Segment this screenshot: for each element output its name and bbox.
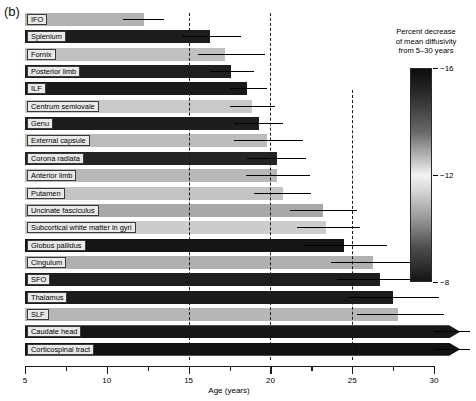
bar-row: Thalamus <box>25 291 434 304</box>
x-tick-label: 25 <box>348 376 357 385</box>
x-tick-label: 15 <box>184 376 193 385</box>
x-tick-major <box>270 366 271 374</box>
colorbar-tick-label: −8 <box>440 278 449 287</box>
bar-row: Corticospinal tract <box>25 343 434 356</box>
bar-label: Centrum semiovale <box>27 101 99 112</box>
bar-row: Corona radiata <box>25 152 434 165</box>
colorbar-gradient <box>410 68 432 282</box>
x-tick-minor <box>311 366 312 371</box>
colorbar-tick-label: −16 <box>440 64 454 73</box>
bar-label: SFO <box>27 274 50 285</box>
colorbar-title-line: Percent decrease <box>384 27 468 37</box>
bar-label: Thalamus <box>27 292 67 303</box>
bar-label: Fornix <box>27 49 56 60</box>
x-tick-label: 10 <box>102 376 111 385</box>
x-tick-major <box>107 366 108 374</box>
error-bar <box>331 262 421 263</box>
x-tick-major <box>189 366 190 374</box>
bar-row: Uncinate fasciculus <box>25 204 434 217</box>
bar-label: SLF <box>27 309 49 320</box>
x-tick-minor <box>393 366 394 371</box>
bar-row: Globus pallidus <box>25 239 434 252</box>
bar-label: Globus pallidus <box>27 240 86 251</box>
error-bar <box>349 297 439 298</box>
x-tick-minor <box>148 366 149 371</box>
colorbar-title-line: from 5–30 years <box>384 46 468 56</box>
error-bar <box>247 158 306 159</box>
bar-row: Centrum semiovale <box>25 100 434 113</box>
bar-label: Cingulum <box>27 257 66 268</box>
bar-row: Putamen <box>25 187 434 200</box>
bar <box>25 82 247 95</box>
bar-label: IFO <box>27 14 47 25</box>
bar-label: Putamen <box>27 188 65 199</box>
x-tick-minor <box>230 366 231 371</box>
reference-line <box>189 13 190 360</box>
bar-label: Posterior limb <box>27 66 80 77</box>
colorbar-tick <box>433 68 438 69</box>
error-bar <box>297 227 361 228</box>
bar-row: Splenium <box>25 30 434 43</box>
bar <box>25 256 373 269</box>
error-bar <box>290 210 357 211</box>
colorbar-title-line: of mean diffusivity <box>384 37 468 47</box>
error-bar <box>246 175 310 176</box>
bar <box>25 291 393 304</box>
figure-panel: (b) IFOSpleniumFornixPosterior limbILFCe… <box>0 0 476 401</box>
x-tick-label: 20 <box>266 376 275 385</box>
colorbar-tick <box>433 175 438 176</box>
error-bar <box>210 71 254 72</box>
bar-label: Genu <box>27 118 53 129</box>
bar-label: ILF <box>27 83 46 94</box>
reference-line <box>352 90 353 360</box>
plot-area: IFOSpleniumFornixPosterior limbILFCentru… <box>25 13 434 360</box>
error-bar <box>303 245 386 246</box>
bar-label: Corona radiata <box>27 153 84 164</box>
x-tick-minor <box>66 366 67 371</box>
bar-label: Subcortical white matter in gyri <box>27 222 136 233</box>
colorbar-legend: Percent decreaseof mean diffusivityfrom … <box>384 27 476 56</box>
colorbar-title: Percent decreaseof mean diffusivityfrom … <box>384 27 468 56</box>
bar-row: SFO <box>25 273 434 286</box>
bar-row: SLF <box>25 308 434 321</box>
error-bar <box>434 331 470 332</box>
bar <box>25 117 259 130</box>
error-bar <box>234 123 283 124</box>
bar-label: Corticospinal tract <box>27 344 94 355</box>
error-bar <box>254 193 311 194</box>
bar-row: Cingulum <box>25 256 434 269</box>
error-bar <box>234 140 303 141</box>
error-bar <box>357 314 444 315</box>
error-bar <box>434 349 470 350</box>
x-tick-major <box>434 366 435 374</box>
bar-row: Subcortical white matter in gyri <box>25 221 434 234</box>
bar-row: Anterior limb <box>25 169 434 182</box>
bar-row: Caudate head <box>25 325 434 338</box>
bar-row: Fornix <box>25 48 434 61</box>
bar <box>25 273 380 286</box>
bar-label: Caudate head <box>27 326 81 337</box>
bar-row: Genu <box>25 117 434 130</box>
bar-label: Splenium <box>27 31 66 42</box>
error-bar <box>198 54 265 55</box>
panel-letter: (b) <box>4 4 20 19</box>
reference-line <box>270 13 271 360</box>
bar-label: External capsule <box>27 135 90 146</box>
bar-row: IFO <box>25 13 434 26</box>
colorbar-tick-label: −12 <box>440 171 454 180</box>
x-tick-major <box>25 366 26 374</box>
bar <box>25 325 460 338</box>
error-bar <box>230 106 276 107</box>
bar-row: External capsule <box>25 134 434 147</box>
error-bar <box>182 36 241 37</box>
bar-row: Posterior limb <box>25 65 434 78</box>
x-tick-major <box>352 366 353 374</box>
bar-label: Uncinate fasciculus <box>27 205 99 216</box>
error-bar <box>123 19 164 20</box>
bar-label: Anterior limb <box>27 170 76 181</box>
error-bar <box>230 88 268 89</box>
colorbar-tick <box>433 282 438 283</box>
x-tick-label: 5 <box>23 376 27 385</box>
bar-row: ILF <box>25 82 434 95</box>
bar <box>25 308 398 321</box>
